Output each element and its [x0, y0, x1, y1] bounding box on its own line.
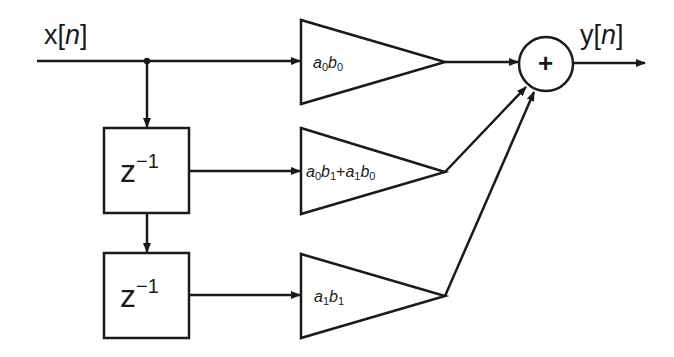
- delay-1-exponent: −1: [136, 150, 159, 172]
- gain1-to-sum-line: [445, 87, 526, 172]
- gain-label-0: a0b0: [313, 54, 343, 73]
- input-label-var: n: [65, 20, 80, 50]
- gain2-to-sum-line: [445, 92, 534, 296]
- delay-1-base: z: [120, 153, 136, 189]
- input-label-suffix: ]: [80, 20, 88, 50]
- output-label-prefix: y[: [580, 20, 601, 50]
- input-label-prefix: x[: [44, 20, 65, 50]
- gain-label-1: a0b1+a1b0: [306, 163, 375, 182]
- delay-2-base: z: [120, 278, 136, 314]
- junction-dot: [144, 58, 150, 64]
- plus-icon: +: [538, 48, 553, 79]
- output-label-var: n: [601, 20, 616, 50]
- output-label-suffix: ]: [616, 20, 624, 50]
- input-label: x[n]: [44, 20, 88, 51]
- delay-label-1: z−1: [120, 150, 159, 190]
- delay-2-exponent: −1: [136, 275, 159, 297]
- gain-label-2: a1b1: [314, 288, 344, 307]
- delay-label-2: z−1: [120, 275, 159, 315]
- output-label: y[n]: [580, 20, 624, 51]
